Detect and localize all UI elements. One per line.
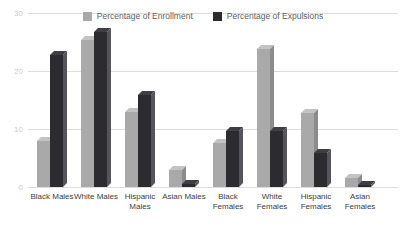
category-group-black-males: Black Males bbox=[37, 13, 67, 202]
category-group-black-females: Black Females bbox=[213, 13, 243, 212]
category-group-asian-females: Asian Females bbox=[345, 13, 375, 212]
expulsions-swatch-icon bbox=[213, 12, 222, 21]
bar-enrollment-hispanic-males bbox=[125, 112, 138, 187]
bar-expulsions-white-males bbox=[94, 32, 107, 187]
x-axis-label: Black Males bbox=[28, 192, 76, 202]
bar-expulsions-hispanic-females bbox=[314, 153, 327, 187]
bar-enrollment-hispanic-females bbox=[301, 113, 314, 187]
bar-expulsions-asian-males bbox=[182, 184, 195, 187]
x-axis-label: Hispanic Females bbox=[292, 192, 340, 212]
category-group-hispanic-females: Hispanic Females bbox=[301, 13, 331, 212]
legend-item-enrollment: Percentage of Enrollment bbox=[83, 11, 193, 21]
bar-pair bbox=[345, 13, 375, 187]
x-axis-label: Asian Females bbox=[336, 192, 384, 212]
bar-expulsions-asian-females bbox=[358, 185, 371, 187]
bar-groups: Black MalesWhite MalesHispanic MalesAsia… bbox=[30, 13, 375, 227]
bar-expulsions-white-females bbox=[270, 131, 283, 187]
x-axis-label: White Females bbox=[248, 192, 296, 212]
bar-pair bbox=[257, 13, 287, 187]
bar-expulsions-hispanic-males bbox=[138, 95, 151, 187]
bar-pair bbox=[37, 13, 67, 187]
category-group-hispanic-males: Hispanic Males bbox=[125, 13, 155, 212]
y-axis: 0102030 bbox=[0, 0, 26, 227]
legend-label-expulsions: Percentage of Expulsions bbox=[227, 11, 323, 21]
bar-pair bbox=[125, 13, 155, 187]
bar-enrollment-white-females bbox=[257, 49, 270, 187]
category-group-asian-males: Asian Males bbox=[169, 13, 199, 202]
bar-pair bbox=[301, 13, 331, 187]
legend: Percentage of Enrollment Percentage of E… bbox=[0, 11, 406, 21]
bar-enrollment-black-males bbox=[37, 141, 50, 187]
category-group-white-females: White Females bbox=[257, 13, 287, 212]
y-tick-label: 0 bbox=[1, 183, 23, 192]
bar-expulsions-black-males bbox=[50, 55, 63, 187]
bar-pair bbox=[213, 13, 243, 187]
bar-chart: 0102030 Black MalesWhite MalesHispanic M… bbox=[0, 0, 406, 227]
bar-expulsions-black-females bbox=[226, 131, 239, 187]
bar-pair bbox=[81, 13, 111, 187]
y-tick-label: 20 bbox=[1, 67, 23, 76]
legend-item-expulsions: Percentage of Expulsions bbox=[213, 11, 323, 21]
plot-area: Black MalesWhite MalesHispanic MalesAsia… bbox=[30, 13, 398, 227]
y-tick-label: 10 bbox=[1, 125, 23, 134]
x-axis-label: White Males bbox=[72, 192, 120, 202]
bar-enrollment-asian-females bbox=[345, 178, 358, 187]
x-axis-label: Hispanic Males bbox=[116, 192, 164, 212]
legend-label-enrollment: Percentage of Enrollment bbox=[97, 11, 193, 21]
bar-enrollment-white-males bbox=[81, 40, 94, 187]
bar-pair bbox=[169, 13, 199, 187]
x-axis-label: Asian Males bbox=[160, 192, 208, 202]
enrollment-swatch-icon bbox=[83, 12, 92, 21]
bar-enrollment-black-females bbox=[213, 143, 226, 187]
bar-enrollment-asian-males bbox=[169, 170, 182, 187]
x-axis-label: Black Females bbox=[204, 192, 252, 212]
category-group-white-males: White Males bbox=[81, 13, 111, 202]
